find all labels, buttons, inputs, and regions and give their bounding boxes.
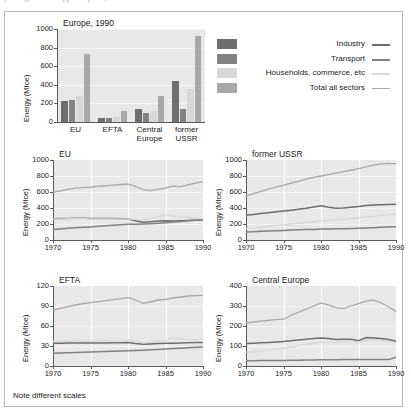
series-lines [19, 274, 209, 396]
line-chart-efta: 030609012019701975198019851990EFTAEnergy… [19, 274, 209, 396]
bar [121, 111, 128, 122]
legend-swatch [217, 68, 237, 78]
series-line [246, 357, 396, 361]
cropped-caption-text: (not legible — cropped caption) [4, 0, 107, 2]
series-line [246, 300, 396, 323]
legend-line-sample [372, 44, 390, 46]
bar-chart-plot-area [57, 29, 205, 122]
bar [84, 54, 91, 122]
figure-note: Note different scales [13, 391, 86, 400]
line-chart-central-europe: 010020030040019701975198019851990Central… [212, 274, 402, 396]
series-line [53, 342, 203, 344]
legend-swatch [217, 54, 237, 64]
gridline [57, 85, 205, 86]
series-line [53, 347, 203, 353]
bar [180, 109, 187, 122]
line-chart-former-ussr: 0200400600800100019701975198019851990for… [212, 148, 402, 270]
bar-chart-category-label: formerUSSR [162, 125, 211, 143]
series-line [53, 220, 203, 230]
bar-chart-title: Europe, 1990 [63, 18, 114, 28]
legend-label: Households, commerce, etc [243, 68, 365, 78]
series-lines [212, 274, 402, 396]
series-line [53, 295, 203, 310]
bar-chart-europe-1990: Energy (Mtoe) Europe, 1990 0200400600800… [19, 18, 209, 146]
bar [150, 111, 157, 122]
figure-frame: Energy (Mtoe) Europe, 1990 0200400600800… [4, 11, 403, 407]
bar-chart-y-axis [57, 29, 58, 122]
bar [158, 96, 165, 122]
series-line [246, 227, 396, 232]
series-lines [19, 148, 209, 270]
cropped-caption-strip: (not legible — cropped caption) [0, 0, 411, 9]
bar [61, 101, 68, 122]
line-chart-eu: 0200400600800100019701975198019851990EUE… [19, 148, 209, 270]
bar-chart-x-axis [57, 122, 205, 123]
legend-line-sample [372, 73, 390, 75]
gridline [57, 29, 205, 30]
legend-label: Industry [243, 39, 365, 49]
bar [76, 96, 83, 122]
bar [69, 100, 76, 122]
legend-swatch [217, 39, 237, 49]
bar [187, 89, 194, 122]
series-line [53, 182, 203, 192]
legend-swatch [217, 83, 237, 93]
bar [172, 81, 179, 122]
legend-line-sample [372, 88, 390, 90]
series-line [246, 214, 396, 229]
bar-chart-y-tick-label: 800 [19, 44, 53, 52]
series-line [53, 214, 203, 220]
bar-chart-y-tick-label: 1000 [19, 25, 53, 33]
bar [135, 109, 142, 122]
gridline [57, 48, 205, 49]
bar-chart-y-tick-label: 0 [19, 118, 53, 126]
bar-chart-y-tick-label: 600 [19, 62, 53, 70]
bar-chart-y-tick-label: 200 [19, 99, 53, 107]
series-lines [212, 148, 402, 270]
bar [143, 113, 150, 122]
legend-label: Total all sectors [243, 83, 365, 93]
legend-line-sample [372, 59, 390, 61]
series-line [246, 204, 396, 215]
bar-chart-y-tick-label: 400 [19, 81, 53, 89]
gridline [57, 66, 205, 67]
series-line [246, 163, 396, 196]
legend-label: Transport [243, 54, 365, 64]
bar [195, 36, 202, 122]
legend: IndustryTransportHouseholds, commerce, e… [217, 38, 397, 100]
